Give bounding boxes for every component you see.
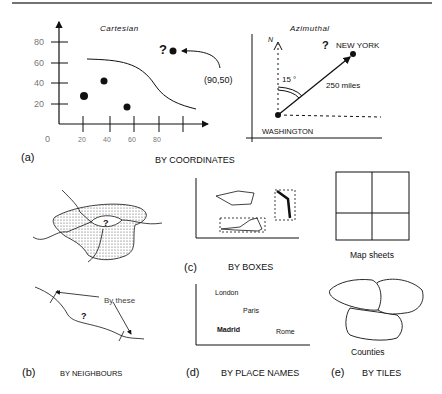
panel-c-caption: BY BOXES — [228, 262, 273, 272]
washington-point — [275, 112, 281, 118]
panel-b-label: (b) — [22, 366, 35, 378]
x-tick: 40 — [103, 136, 111, 143]
place-label: London — [215, 289, 238, 296]
data-point — [80, 92, 88, 100]
point-arrow — [182, 51, 220, 68]
place-names-diagram: London Paris Madrid Rome — [196, 284, 310, 345]
origin-label: WASHINGTON — [262, 127, 313, 136]
destination-label: NEW YORK — [336, 41, 380, 50]
county-shape — [329, 279, 380, 310]
panel-d-label: (d) — [186, 366, 199, 378]
place-label: Madrid — [217, 326, 240, 333]
x-tick: 20 — [78, 136, 86, 143]
pointer-arrow — [56, 292, 99, 297]
boxes-diagram — [196, 178, 299, 238]
panel-e-label: (e) — [331, 366, 344, 378]
question-mark: ? — [322, 39, 329, 51]
polygon-feature — [216, 191, 254, 205]
azimuthal-title: Azimuthal — [289, 24, 330, 33]
data-point — [124, 104, 131, 111]
north-label: N — [268, 36, 274, 43]
angle-label: 15 ° — [282, 75, 296, 84]
neighbours-diagram: ? ? By these — [33, 190, 162, 341]
y-tick: 60 — [34, 58, 44, 68]
spatial-referencing-diagram: Cartesian 80 60 40 20 0 20 40 60 80 ? (9… — [0, 0, 442, 394]
new-york-point — [350, 51, 356, 57]
place-label: Paris — [243, 307, 259, 314]
boundary-line — [35, 287, 144, 339]
bounding-box — [275, 190, 295, 220]
distance-label: 250 miles — [326, 81, 360, 90]
map-sheets-label: Map sheets — [350, 250, 394, 260]
question-mark: ? — [81, 311, 87, 321]
origin-label: 0 — [45, 134, 50, 144]
azimuthal-plot: Azimuthal N 15 ° 250 miles ? NEW YORK WA… — [246, 24, 382, 142]
place-label: Rome — [276, 328, 295, 335]
by-these-label: By these — [104, 296, 136, 305]
point-label: (90,50) — [204, 75, 233, 85]
panel-b-caption: BY NEIGHBOURS — [60, 369, 122, 378]
panel-a-caption: BY COORDINATES — [155, 155, 235, 165]
cartesian-plot: Cartesian 80 60 40 20 0 20 40 60 80 ? (9… — [34, 22, 233, 144]
panel-c-label: (c) — [184, 261, 197, 273]
panel-d-caption: BY PLACE NAMES — [221, 368, 299, 378]
counties-label: Counties — [351, 347, 385, 357]
question-mark: ? — [103, 218, 109, 228]
data-point — [101, 78, 108, 85]
panel-e-caption: BY TILES — [362, 368, 401, 378]
x-tick: 60 — [128, 136, 136, 143]
y-tick: 40 — [34, 78, 44, 88]
question-mark: ? — [159, 42, 167, 57]
line-feature — [277, 191, 290, 218]
y-tick: 20 — [34, 99, 44, 109]
pointer-arrow — [113, 302, 131, 334]
data-point — [170, 48, 177, 55]
y-tick: 80 — [34, 37, 44, 47]
cartesian-title: Cartesian — [100, 24, 139, 33]
x-tick: 80 — [153, 136, 161, 143]
baseline-dashed — [278, 115, 381, 117]
panel-a-label: (a) — [21, 151, 34, 163]
tiles-diagram: Map sheets Counties — [329, 172, 423, 357]
